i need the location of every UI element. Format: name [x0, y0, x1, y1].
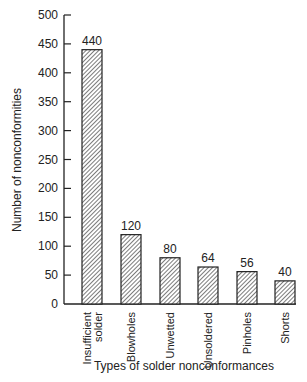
- bar-unwetted: 80: [160, 242, 180, 304]
- x-category-label: Blowholes: [125, 312, 137, 363]
- y-axis-title: Number of nonconformities: [10, 88, 24, 232]
- bar-blowholes: 120: [121, 219, 141, 304]
- y-tick-label: 50: [45, 268, 59, 282]
- y-tick-label: 200: [38, 181, 58, 195]
- bar-pinholes: 56: [237, 256, 257, 304]
- y-tick-label: 250: [38, 153, 58, 167]
- y-tick-label: 350: [38, 95, 58, 109]
- x-category-label: solder: [92, 312, 104, 342]
- y-tick-label: 0: [51, 297, 58, 311]
- bar-value-label: 64: [201, 251, 215, 265]
- y-tick-label: 150: [38, 210, 58, 224]
- bar-insufficient-solder: 440: [82, 34, 102, 304]
- bar-shorts: 40: [275, 265, 295, 304]
- x-category-label: Shorts: [279, 312, 291, 344]
- y-tick-label: 400: [38, 66, 58, 80]
- bar-value-label: 40: [278, 265, 292, 279]
- bar-unsoldered: 64: [198, 251, 218, 304]
- y-tick-label: 100: [38, 239, 58, 253]
- x-category-label: Pinholes: [241, 312, 253, 355]
- bar-value-label: 56: [240, 256, 254, 270]
- y-tick-label: 500: [38, 8, 58, 22]
- y-tick-label: 300: [38, 124, 58, 138]
- bar-value-label: 120: [121, 219, 141, 233]
- x-axis-title: Types of solder nonconformances: [94, 359, 274, 373]
- bar-value-label: 80: [163, 242, 177, 256]
- x-category-label: Unwetted: [164, 312, 176, 358]
- y-tick-label: 450: [38, 37, 58, 51]
- bar-value-label: 440: [82, 34, 102, 48]
- pareto-bar-chart: 050100150200250300350400450500 440120806…: [0, 0, 307, 382]
- bars: 44012080645640: [82, 34, 295, 304]
